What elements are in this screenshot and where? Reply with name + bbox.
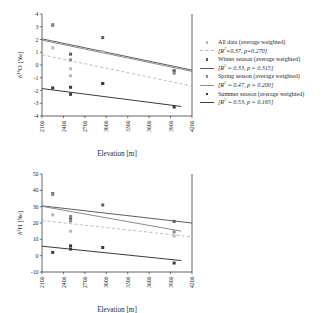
svg-text:30: 30 — [33, 204, 39, 210]
superscript-two: 2 — [224, 80, 226, 85]
legend-label: All data (average weighted) — [218, 38, 285, 47]
svg-text:40: 40 — [33, 187, 39, 193]
svg-text:3000: 3000 — [103, 276, 109, 288]
svg-text:-1: -1 — [34, 75, 39, 81]
svg-text:Elevation [m]: Elevation [m] — [97, 150, 137, 158]
svg-text:10: 10 — [33, 236, 39, 242]
legend-marker-all_data — [196, 41, 218, 44]
legend-line-spring — [196, 85, 218, 86]
svg-text:0: 0 — [36, 253, 39, 259]
legend-line-summer — [196, 102, 218, 103]
svg-text:3300: 3300 — [125, 276, 131, 288]
svg-text:δ2H [‰]: δ2H [‰] — [16, 211, 25, 235]
svg-text:20: 20 — [33, 220, 39, 226]
svg-text:-4: -4 — [34, 113, 39, 119]
legend-marker-winter — [196, 58, 218, 61]
figure-page: -4-3-2-101234210024002700300033003600390… — [0, 0, 333, 313]
superscript-two: 2 — [224, 97, 226, 102]
delta-2h-plot-area: -100102030405021002400270030003300360039… — [0, 160, 333, 313]
svg-text:4200: 4200 — [189, 276, 195, 288]
legend-stat-text: [R2 = 0.33, p = 0.315] — [218, 64, 273, 73]
legend-fit-all_data: [R2=0.37, p=0.270] — [196, 47, 332, 56]
svg-text:2700: 2700 — [82, 120, 88, 132]
legend-line-winter — [196, 68, 218, 69]
legend-item-winter: Winter season (average weighted) — [196, 55, 332, 64]
legend-stat-text: [R2=0.37, p=0.270] — [218, 47, 267, 56]
svg-text:3900: 3900 — [168, 120, 174, 132]
legend-label: Spring season (average weighted) — [218, 72, 300, 81]
chart-delta-18o: -4-3-2-101234210024002700300033003600390… — [0, 0, 333, 160]
svg-text:2: 2 — [36, 37, 39, 43]
legend-fit-summer: [R2 = 0.53, p = 0.165] — [196, 98, 332, 107]
svg-text:4: 4 — [36, 11, 39, 17]
svg-text:2100: 2100 — [39, 120, 45, 132]
svg-text:2700: 2700 — [82, 276, 88, 288]
line-icon — [200, 68, 214, 69]
legend-stat-text: [R2 = 0.47, p = 0.200] — [218, 81, 273, 90]
line-icon — [200, 102, 214, 103]
legend-label: Summer season (average weighted) — [218, 90, 304, 99]
svg-text:3600: 3600 — [146, 276, 152, 288]
svg-text:2400: 2400 — [61, 120, 67, 132]
svg-text:3900: 3900 — [168, 276, 174, 288]
svg-text:3: 3 — [36, 24, 39, 30]
svg-text:0: 0 — [36, 62, 39, 68]
svg-text:δ18O [‰]: δ18O [‰] — [16, 52, 25, 79]
legend-delta-18o: All data (average weighted)[R2=0.37, p=0… — [196, 38, 332, 107]
superscript-two: 2 — [224, 46, 226, 51]
legend-fit-spring: [R2 = 0.47, p = 0.200] — [196, 81, 332, 90]
legend-line-all_data — [196, 50, 218, 51]
legend-label: Winter season (average weighted) — [218, 55, 300, 64]
svg-text:Elevation [m]: Elevation [m] — [97, 306, 137, 313]
svg-text:3300: 3300 — [125, 120, 131, 132]
square-marker-icon — [206, 41, 209, 44]
legend-fit-winter: [R2 = 0.33, p = 0.315] — [196, 64, 332, 73]
square-marker-icon — [206, 93, 209, 96]
legend-marker-spring — [196, 75, 218, 78]
svg-text:1: 1 — [36, 49, 39, 55]
svg-text:-10: -10 — [31, 269, 39, 275]
dashed-line-icon — [200, 50, 214, 51]
legend-item-summer: Summer season (average weighted) — [196, 90, 332, 99]
svg-text:-3: -3 — [34, 100, 39, 106]
square-marker-icon — [206, 75, 209, 78]
superscript-two: 2 — [224, 63, 226, 68]
svg-text:2400: 2400 — [61, 276, 67, 288]
svg-text:3600: 3600 — [146, 120, 152, 132]
square-marker-icon — [206, 58, 209, 61]
svg-text:3000: 3000 — [103, 120, 109, 132]
legend-item-spring: Spring season (average weighted) — [196, 72, 332, 81]
svg-text:2100: 2100 — [39, 276, 45, 288]
legend-marker-summer — [196, 93, 218, 96]
chart-delta-2h: -100102030405021002400270030003300360039… — [0, 160, 333, 313]
svg-text:4200: 4200 — [189, 120, 195, 132]
legend-stat-text: [R2 = 0.53, p = 0.165] — [218, 98, 273, 107]
legend-item-all_data: All data (average weighted) — [196, 38, 332, 47]
svg-text:-2: -2 — [34, 88, 39, 94]
line-icon — [200, 85, 214, 86]
svg-text:50: 50 — [33, 171, 39, 177]
